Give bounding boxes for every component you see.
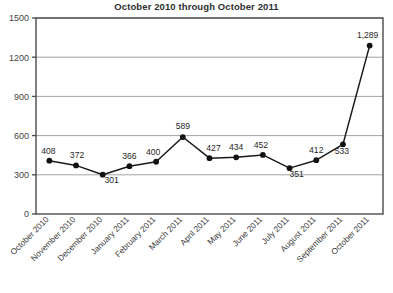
data-point-label: 412 xyxy=(309,145,324,155)
data-point xyxy=(260,152,266,158)
y-axis-tick-label: 600 xyxy=(14,131,29,141)
data-point-labels: 4083723013664005894274344523514125331,28… xyxy=(41,30,378,186)
data-point-label: 301 xyxy=(105,175,120,185)
y-axis-tick-label: 0 xyxy=(24,209,29,219)
plot-frame xyxy=(36,18,383,214)
y-axis-tick-label: 900 xyxy=(14,92,29,102)
y-axis-tick-label: 1500 xyxy=(9,13,29,23)
data-point-label: 408 xyxy=(41,146,56,156)
data-point-label: 533 xyxy=(335,146,350,156)
data-point xyxy=(207,155,213,161)
series-polyline xyxy=(49,46,369,175)
chart-canvas: 030060090012001500 October 2010November … xyxy=(0,0,393,293)
data-point-label: 400 xyxy=(146,147,161,157)
data-point xyxy=(46,158,52,164)
data-point-label: 427 xyxy=(206,143,221,153)
data-point xyxy=(127,163,133,169)
line-chart: October 2010 through October 2011 030060… xyxy=(0,0,393,293)
x-axis-tick-label: April 2011 xyxy=(178,214,211,247)
data-point-label: 1,289 xyxy=(357,30,379,40)
x-axis-tick-label: September 2011 xyxy=(294,214,344,264)
data-point xyxy=(313,157,319,163)
data-point-label: 351 xyxy=(289,169,304,179)
data-point-label: 372 xyxy=(70,150,85,160)
data-point xyxy=(153,159,159,165)
data-points xyxy=(46,43,372,178)
data-point-label: 366 xyxy=(122,151,137,161)
data-point xyxy=(73,162,79,168)
y-axis-labels: 030060090012001500 xyxy=(9,13,29,219)
data-point xyxy=(180,134,186,140)
data-point xyxy=(367,43,373,49)
y-axis-tick-label: 300 xyxy=(14,170,29,180)
y-axis-tick-label: 1200 xyxy=(9,53,29,63)
x-axis-labels: October 2010November 2010December 2010Ja… xyxy=(8,214,371,264)
data-point-label: 589 xyxy=(176,121,191,131)
data-point-label: 434 xyxy=(229,142,244,152)
data-point xyxy=(233,154,239,160)
data-line xyxy=(49,46,369,175)
data-point-label: 452 xyxy=(254,140,269,150)
